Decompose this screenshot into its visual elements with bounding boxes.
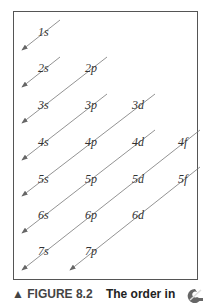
go-figure-icon [186,287,204,303]
orbital-label: 4d [132,135,145,149]
orbital-label: 5f [178,172,189,186]
orbital-label: 2s [38,61,49,75]
orbital-label: 3s [37,98,49,112]
orbital-label: 7p [85,244,97,258]
diagonal-arrow [22,130,200,270]
figure-caption: ▲ FIGURE 8.2 The order in [12,287,175,301]
orbital-label: 5s [38,172,49,186]
orbital-label: 4s [38,135,49,149]
orbital-label: 6d [132,208,145,222]
orbital-label: 6s [38,208,49,222]
orbital-label: 4p [85,135,97,149]
orbital-label: 3d [131,98,145,112]
orbital-label: 5p [85,172,97,186]
caption-text: The order in [106,287,175,301]
aufbau-diagram: 1s2s2p3s3p3d4s4p4d4f5s5p5d5f6s6p6d7s7p [0,0,209,307]
orbital-label: 3p [84,98,97,112]
orbital-label: 1s [38,25,49,39]
figure-label: ▲ FIGURE 8.2 [12,287,93,301]
orbital-label: 5d [132,172,145,186]
orbital-label: 7s [38,244,49,258]
orbital-label: 4f [178,135,189,149]
orbital-label: 2p [85,61,97,75]
orbital-label: 6p [85,208,97,222]
